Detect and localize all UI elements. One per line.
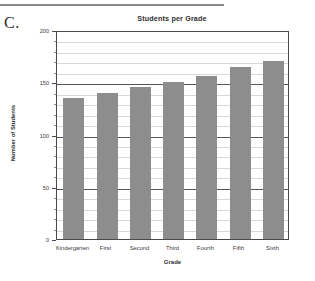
x-axis-tick-label: Sixth: [252, 245, 293, 251]
bar: [130, 87, 151, 239]
y-axis-tick-minor: [54, 115, 56, 116]
y-axis-tick-minor: [54, 156, 56, 157]
y-axis-tick-major: [52, 188, 56, 189]
y-axis-title: Number of Students: [10, 98, 16, 168]
y-axis-tick-major: [52, 83, 56, 84]
y-axis-tick-minor: [54, 146, 56, 147]
y-axis-tick-minor: [54, 41, 56, 42]
chart-title: Students per Grade: [56, 14, 288, 23]
bar: [63, 98, 84, 239]
y-axis-tick-minor: [54, 230, 56, 231]
y-axis-tick-major: [52, 31, 56, 32]
y-axis-tick-minor: [54, 73, 56, 74]
y-axis-tick-major: [52, 136, 56, 137]
bar: [196, 76, 217, 239]
y-axis-tick-minor: [54, 104, 56, 105]
plot-area: [56, 31, 289, 240]
y-axis-tick-label: 150: [33, 80, 49, 86]
y-axis-tick-minor: [54, 62, 56, 63]
y-axis-tick-minor: [54, 125, 56, 126]
y-axis-tick-minor: [54, 167, 56, 168]
y-axis-tick-minor: [54, 219, 56, 220]
y-axis-tick-major: [52, 240, 56, 241]
bar: [230, 67, 251, 239]
y-axis-tick-minor: [54, 52, 56, 53]
y-axis-tick-label: 200: [33, 28, 49, 34]
x-axis-title: Grade: [56, 259, 289, 265]
y-axis-tick-minor: [54, 94, 56, 95]
y-axis-tick-label: 100: [33, 133, 49, 139]
bar: [163, 82, 184, 239]
y-axis-tick-minor: [54, 198, 56, 199]
y-axis-tick-label: 0: [33, 237, 49, 243]
bar: [97, 93, 118, 239]
y-axis-tick-label: 50: [33, 185, 49, 191]
bar: [263, 61, 284, 239]
y-axis-tick-minor: [54, 209, 56, 210]
y-axis-tick-minor: [54, 177, 56, 178]
bar-chart: Students per Grade Number of Students 05…: [0, 0, 315, 281]
bar-series: [57, 32, 288, 239]
